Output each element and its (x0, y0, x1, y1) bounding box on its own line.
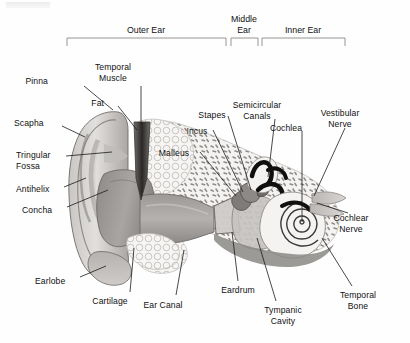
label-antihelix: Antihelix (16, 184, 49, 195)
label-tringular-fossa: Tringular Fossa (16, 150, 51, 171)
label-malleus: Malleus (124, 148, 224, 159)
bracket-outer-ear (67, 38, 226, 46)
label-scapha: Scapha (14, 118, 44, 129)
label-eardrum: Eardrum (188, 285, 288, 296)
label-earlobe: Earlobe (35, 276, 65, 287)
bracket-middle-ear (231, 38, 258, 46)
ear-anatomy-diagram: Outer EarMiddle EarInner Ear PinnaTempor… (0, 0, 410, 343)
label-ear-canal: Ear Canal (113, 300, 213, 311)
leader-temporal-bone (322, 238, 352, 286)
bracket-inner-ear (262, 38, 345, 46)
leader-vestibular-nerve (314, 128, 345, 196)
label-pinna: Pinna (0, 76, 48, 87)
section-brackets (67, 38, 345, 46)
label-temporal-muscle: Temporal Muscle (63, 62, 163, 83)
section-label-inner-ear: Inner Ear (243, 25, 363, 36)
label-fat: Fat (4, 98, 104, 109)
label-cochlear-nerve: Cochlear Nerve (301, 213, 401, 234)
label-concha: Concha (22, 205, 52, 216)
label-vestibular-nerve: Vestibular Nerve (290, 108, 390, 129)
label-incus: Incus (147, 126, 247, 137)
label-temporal-bone: Temporal Bone (308, 290, 408, 311)
